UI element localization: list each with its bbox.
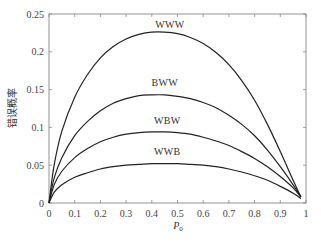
x-tick-label: 0 — [47, 208, 52, 219]
curve-label-www: WWW — [155, 19, 184, 30]
x-tick-labels: 00.10.20.30.40.50.60.70.80.91 — [47, 208, 309, 219]
x-tick-label: 0.5 — [171, 208, 184, 219]
plot-frame — [49, 14, 306, 203]
y-tick-labels: 00.050.10.150.20.25 — [27, 9, 45, 209]
error-probability-chart: 00.050.10.150.20.25 00.10.20.30.40.50.60… — [0, 0, 321, 242]
y-tick-label: 0.25 — [27, 9, 45, 20]
y-tick-label: 0.15 — [27, 84, 45, 95]
x-tick-label: 1 — [304, 208, 309, 219]
x-tick-label: 0.7 — [223, 208, 236, 219]
y-tick-label: 0.05 — [27, 160, 45, 171]
y-tick-label: 0.2 — [32, 46, 45, 57]
curve-labels: WWWBWWWBWWWB — [151, 19, 184, 157]
curve-label-bww: BWW — [151, 77, 178, 88]
y-tick-label: 0.1 — [32, 122, 45, 133]
axis-ticks — [49, 14, 306, 203]
x-tick-label: 0.6 — [197, 208, 210, 219]
x-tick-label: 0.1 — [68, 208, 81, 219]
curve-label-wbw: WBW — [154, 115, 181, 126]
curve-label-wwb: WWB — [154, 146, 180, 157]
y-axis-title: 错误概率 — [6, 88, 18, 128]
curve-wwb — [49, 164, 301, 203]
x-tick-label: 0.2 — [94, 208, 107, 219]
x-tick-label: 0.9 — [274, 208, 287, 219]
x-tick-label: 0.3 — [120, 208, 133, 219]
curve-wbw — [49, 132, 301, 203]
x-tick-label: 0.4 — [146, 208, 159, 219]
y-tick-label: 0 — [39, 198, 44, 209]
x-tick-label: 0.8 — [248, 208, 261, 219]
plot-area-border — [49, 14, 306, 203]
x-axis-title: P0 — [172, 220, 183, 233]
